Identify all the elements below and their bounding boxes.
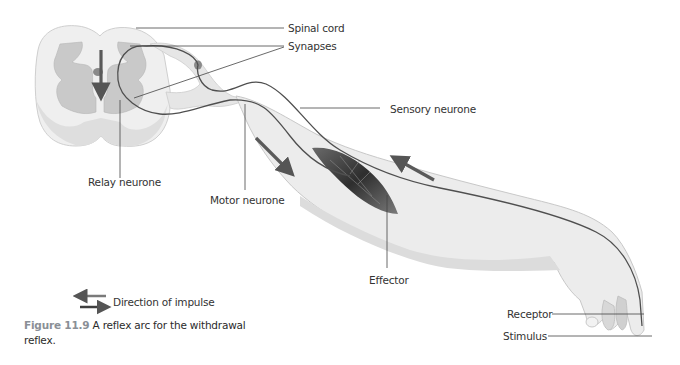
spinal-cord-section xyxy=(35,26,246,147)
legend-direction-of-impulse: Direction of impulse xyxy=(113,296,215,308)
label-spinal-cord: Spinal cord xyxy=(288,22,344,34)
label-sensory-neurone: Sensory neurone xyxy=(390,103,476,115)
label-stimulus: Stimulus xyxy=(503,330,547,342)
label-effector: Effector xyxy=(369,274,409,286)
figure-number: Figure 11.9 xyxy=(24,319,89,331)
legend-arrows xyxy=(80,296,106,307)
figure-caption: Figure 11.9 A reflex arc for the withdra… xyxy=(24,318,264,348)
label-motor-neurone: Motor neurone xyxy=(210,194,284,206)
reflex-arc-figure: Spinal cord Synapses Sensory neurone Rel… xyxy=(0,0,680,365)
arm xyxy=(236,96,644,336)
label-synapses: Synapses xyxy=(288,40,336,52)
label-receptor: Receptor xyxy=(507,308,552,320)
label-relay-neurone: Relay neurone xyxy=(88,176,161,188)
